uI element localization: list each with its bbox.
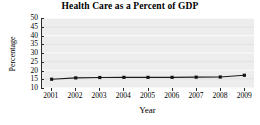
x-tick-label: 2006 (159, 92, 185, 100)
y-tick-mark (41, 79, 44, 80)
y-tick-label: 15 (24, 75, 38, 83)
y-tick-mark (41, 36, 44, 37)
y-tick-label: 45 (24, 23, 38, 31)
x-tick-label: 2009 (231, 92, 257, 100)
y-tick-mark (41, 71, 44, 72)
y-tick-label: 35 (24, 40, 38, 48)
x-tick-label: 2007 (183, 92, 209, 100)
x-tick-label: 2004 (110, 92, 136, 100)
y-tick-label: 40 (24, 32, 38, 40)
chart-figure: Health Care as a Percent of GDP Percenta… (0, 0, 260, 125)
x-tick-label: 2003 (86, 92, 112, 100)
x-tick-label: 2005 (135, 92, 161, 100)
y-tick-label: 10 (24, 84, 38, 92)
chart-title: Health Care as a Percent of GDP (0, 1, 260, 11)
y-tick-label: 30 (24, 49, 38, 57)
y-tick-mark (41, 18, 44, 19)
y-tick-mark (41, 44, 44, 45)
x-tick-label: 2008 (207, 92, 233, 100)
y-axis-label: Percentage (8, 18, 18, 90)
y-tick-label: 20 (24, 67, 38, 75)
y-tick-mark (41, 88, 44, 89)
x-tick-label: 2002 (62, 92, 88, 100)
data-series-health-care-percent-gdp (42, 18, 254, 87)
y-tick-label: 50 (24, 14, 38, 22)
y-tick-label: 25 (24, 58, 38, 66)
y-tick-mark (41, 62, 44, 63)
y-tick-mark (41, 53, 44, 54)
x-axis-label: Year (40, 105, 255, 115)
x-tick-label: 2001 (38, 92, 64, 100)
y-tick-mark (41, 27, 44, 28)
plot-area (41, 18, 254, 88)
